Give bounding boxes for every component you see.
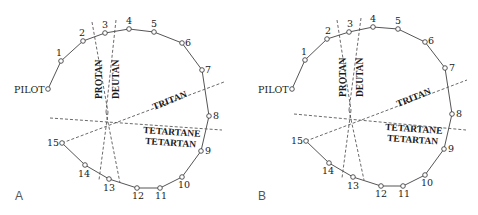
cap-arrangement-path xyxy=(48,29,209,188)
cap-label-15: 15 xyxy=(47,137,59,148)
panel-label-a: A xyxy=(15,189,23,203)
cap-14 xyxy=(83,163,88,168)
cap-label-3: 3 xyxy=(102,19,108,30)
cap-label-10: 10 xyxy=(421,177,433,188)
color-vision-test-diagram: PILOT 1 2 3 4 5 6 7 8 9 10 11 12 13 14 1… xyxy=(0,0,478,215)
cap-4 xyxy=(127,27,132,32)
deutan-label: DEUTAN xyxy=(111,59,121,99)
cap-label-8: 8 xyxy=(213,110,219,121)
protan-label: PROTAN xyxy=(338,57,348,97)
cap-label-2: 2 xyxy=(325,25,331,36)
cap-8 xyxy=(450,112,455,117)
cap-9 xyxy=(199,149,204,154)
cap-label-4: 4 xyxy=(370,13,376,24)
pilot-cap xyxy=(290,87,295,92)
cap-label-9: 9 xyxy=(448,143,454,154)
cap-9 xyxy=(442,147,447,152)
cap-label-7: 7 xyxy=(449,62,455,73)
panel-b: PILOT 1 2 3 4 5 6 7 8 9 10 11 12 13 14 1… xyxy=(258,13,467,203)
deutan-axis-line-lower xyxy=(349,110,364,180)
cap-3 xyxy=(103,31,108,36)
deutan-axis-line-lower xyxy=(106,112,120,183)
panel-a: PILOT 1 2 3 4 5 6 7 8 9 10 11 12 13 14 1… xyxy=(14,15,224,203)
cap-7 xyxy=(200,68,205,73)
cap-label-13: 13 xyxy=(103,182,115,193)
cap-15 xyxy=(304,139,309,144)
cap-label-13: 13 xyxy=(347,180,359,191)
cap-label-12: 12 xyxy=(132,190,144,201)
cap-markers xyxy=(46,27,212,191)
cap-label-5: 5 xyxy=(395,15,401,26)
cap-label-8: 8 xyxy=(456,108,462,119)
panel-label-b: B xyxy=(258,189,266,203)
cap-5 xyxy=(152,30,157,35)
tritan-label: TRITAN xyxy=(395,86,432,109)
cap-5 xyxy=(396,27,401,32)
cap-label-15: 15 xyxy=(291,135,303,146)
cap-label-14: 14 xyxy=(78,168,90,179)
cap-label-9: 9 xyxy=(205,145,211,156)
cap-1 xyxy=(59,59,64,64)
cap-label-1: 1 xyxy=(56,47,62,58)
cap-markers xyxy=(290,25,455,189)
cap-label-6: 6 xyxy=(185,37,191,48)
protan-axis-line-lower xyxy=(342,110,351,178)
cap-1 xyxy=(303,58,308,63)
cap-2 xyxy=(325,37,330,42)
cap-label-12: 12 xyxy=(375,188,387,199)
cap-6 xyxy=(180,41,185,46)
cap-15 xyxy=(60,141,65,146)
cap-2 xyxy=(81,39,86,44)
cap-label-2: 2 xyxy=(79,27,85,38)
protan-label: PROTAN xyxy=(94,59,104,99)
cap-label-4: 4 xyxy=(126,15,132,26)
pilot-label: PILOT xyxy=(258,84,289,95)
cap-8 xyxy=(207,114,212,119)
pilot-label: PILOT xyxy=(14,84,45,95)
cap-label-10: 10 xyxy=(178,179,190,190)
cap-4 xyxy=(371,25,376,30)
deutan-label: DEUTAN xyxy=(355,57,365,97)
cap-label-11: 11 xyxy=(398,188,410,199)
cap-label-5: 5 xyxy=(151,18,157,29)
cap-7 xyxy=(443,66,448,71)
cap-label-14: 14 xyxy=(322,165,334,176)
tritan-label: TRITAN xyxy=(151,89,188,112)
cap-13 xyxy=(107,177,112,182)
cap-label-11: 11 xyxy=(155,190,167,201)
cap-13 xyxy=(351,175,356,180)
cap-arrangement-path xyxy=(292,27,452,186)
cap-label-3: 3 xyxy=(347,18,353,29)
pilot-cap xyxy=(46,87,51,92)
cap-label-7: 7 xyxy=(205,64,211,75)
cap-3 xyxy=(347,30,352,35)
cap-6 xyxy=(423,40,428,45)
cap-label-6: 6 xyxy=(428,35,434,46)
cap-label-1: 1 xyxy=(301,46,307,57)
